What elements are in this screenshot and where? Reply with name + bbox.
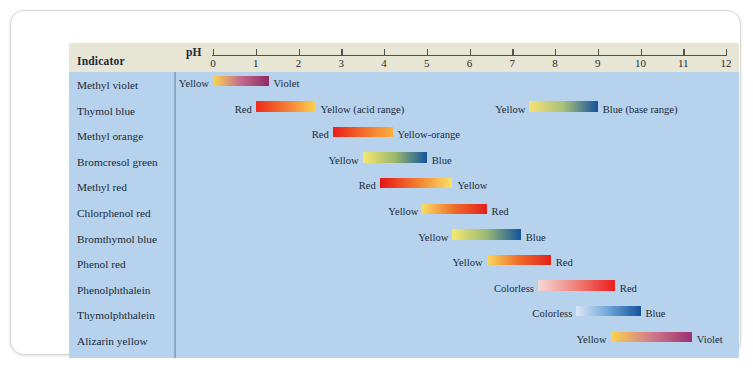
- band-right-label: Blue: [432, 155, 452, 166]
- table-row: Methyl violetYellowViolet: [69, 74, 739, 100]
- band-right-label: Violet: [274, 78, 300, 89]
- table-row: PhenolphthaleinColorlessRed: [69, 279, 739, 305]
- axis-tick-label: 12: [711, 57, 741, 69]
- axis-tick: [683, 49, 684, 56]
- band-right-label: Blue (base range): [603, 104, 678, 115]
- indicator-name: Methyl violet: [77, 79, 138, 91]
- color-transition-bar: [333, 127, 393, 138]
- axis-tick: [213, 49, 214, 56]
- band-left-label: Red: [312, 129, 329, 140]
- axis-tick: [512, 49, 513, 56]
- axis-tick-label: 7: [497, 57, 527, 69]
- axis-tick-label: 0: [198, 57, 228, 69]
- indicator-name: Alizarin yellow: [77, 335, 148, 347]
- table-row: Alizarin yellowYellowViolet: [69, 330, 739, 356]
- axis-tick: [299, 49, 300, 56]
- axis-tick-label: 2: [284, 57, 314, 69]
- color-transition-bar: [538, 280, 615, 291]
- axis-tick-label: 10: [626, 57, 656, 69]
- band-left-label: Red: [235, 104, 252, 115]
- axis-tick-label: 5: [412, 57, 442, 69]
- color-transition-bar: [422, 204, 486, 215]
- indicator-name: Phenol red: [77, 258, 126, 270]
- band-left-label: Colorless: [532, 308, 572, 319]
- band-right-label: Yellow (acid range): [321, 104, 405, 115]
- indicator-name: Methyl orange: [77, 130, 143, 142]
- indicator-name: Thymol blue: [77, 105, 135, 117]
- table-row: Methyl orangeRedYellow-orange: [69, 125, 739, 151]
- indicator-name: Chlorphenol red: [77, 207, 151, 219]
- color-transition-bar: [213, 76, 269, 87]
- table-row: Bromthymol blueYellowBlue: [69, 228, 739, 254]
- axis-tick: [427, 49, 428, 56]
- color-transition-bar: [611, 332, 692, 343]
- band-right-label: Red: [492, 206, 509, 217]
- band-left-label: Yellow: [452, 257, 482, 268]
- band-right-label: Blue: [526, 232, 546, 243]
- band-left-label: Yellow: [495, 104, 525, 115]
- axis-tick-label: 8: [540, 57, 570, 69]
- color-transition-bar: [452, 229, 520, 240]
- axis-tick: [598, 49, 599, 56]
- band-right-label: Red: [620, 283, 637, 294]
- table-row: Bromcresol greenYellowBlue: [69, 151, 739, 177]
- axis-tick-label: 4: [369, 57, 399, 69]
- table-row: Thymol blueRedYellow (acid range)YellowB…: [69, 100, 739, 126]
- table-row: Methyl redRedYellow: [69, 176, 739, 202]
- indicator-name: Methyl red: [77, 181, 127, 193]
- indicator-name: Bromcresol green: [77, 156, 158, 168]
- band-left-label: Yellow: [418, 232, 448, 243]
- axis-tick-label: 11: [668, 57, 698, 69]
- indicator-name: Thymolphthalein: [77, 309, 155, 321]
- color-transition-bar: [576, 306, 640, 317]
- band-left-label: Yellow: [179, 78, 209, 89]
- band-left-label: Red: [359, 180, 376, 191]
- color-transition-bar: [256, 101, 316, 112]
- table-row: ThymolphthaleinColorlessBlue: [69, 304, 739, 330]
- axis-tick: [384, 49, 385, 56]
- band-right-label: Yellow-orange: [398, 129, 460, 140]
- axis-tick-label: 9: [583, 57, 613, 69]
- band-left-label: Yellow: [576, 334, 606, 345]
- band-right-label: Red: [556, 257, 573, 268]
- ph-axis: 0123456789101112: [69, 43, 739, 72]
- ph-indicator-chart: Indicator pH 0123456789101112 Methyl vio…: [69, 43, 739, 358]
- band-right-label: Blue: [646, 308, 666, 319]
- color-transition-bar: [529, 101, 597, 112]
- table-row: Chlorphenol redYellowRed: [69, 202, 739, 228]
- color-transition-bar: [363, 152, 427, 163]
- band-right-label: Yellow: [457, 180, 487, 191]
- color-transition-bar: [487, 255, 551, 266]
- axis-tick-label: 6: [455, 57, 485, 69]
- band-right-label: Violet: [697, 334, 723, 345]
- axis-tick: [256, 49, 257, 56]
- band-left-label: Colorless: [494, 283, 534, 294]
- color-transition-bar: [380, 178, 453, 189]
- axis-tick: [470, 49, 471, 56]
- indicator-name: Phenolphthalein: [77, 284, 150, 296]
- table-row: Phenol redYellowRed: [69, 253, 739, 279]
- axis-tick: [726, 49, 727, 56]
- axis-tick: [555, 49, 556, 56]
- axis-tick: [341, 49, 342, 56]
- figure-card: Indicator pH 0123456789101112 Methyl vio…: [10, 10, 741, 355]
- axis-tick: [641, 49, 642, 56]
- indicator-name: Bromthymol blue: [77, 233, 157, 245]
- axis-tick-label: 3: [326, 57, 356, 69]
- band-left-label: Yellow: [388, 206, 418, 217]
- axis-tick-label: 1: [241, 57, 271, 69]
- band-left-label: Yellow: [328, 155, 358, 166]
